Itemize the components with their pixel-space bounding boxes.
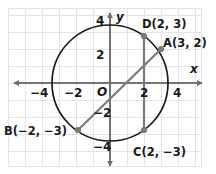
point-c — [141, 127, 147, 133]
origin-label: O — [97, 85, 107, 99]
point-d — [141, 33, 147, 39]
y-tick-minus-2: −2 — [93, 106, 111, 120]
x-tick-minus-2: −2 — [64, 86, 82, 100]
point-label-b: B(−2, −3) — [4, 124, 67, 138]
x-tick-4: 4 — [173, 86, 181, 100]
coordinate-plane-figure: x y O −4 −2 2 4 4 2 −2 −4 D(2, 3) A(3, 2… — [0, 0, 216, 174]
point-label-a: A(3, 2) — [163, 36, 207, 50]
y-tick-4: 4 — [96, 14, 104, 28]
point-label-d: D(2, 3) — [142, 17, 186, 31]
x-axis-label: x — [190, 62, 198, 76]
x-tick-minus-4: −4 — [30, 86, 48, 100]
y-tick-minus-4: −4 — [93, 140, 111, 154]
x-tick-2: 2 — [140, 86, 148, 100]
y-tick-2: 2 — [96, 48, 104, 62]
point-label-c: C(2, −3) — [133, 145, 186, 159]
point-b — [75, 127, 81, 133]
y-axis-label: y — [116, 10, 124, 24]
